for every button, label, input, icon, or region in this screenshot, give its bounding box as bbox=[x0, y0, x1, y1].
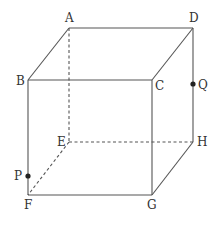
point-P bbox=[25, 173, 30, 178]
label-C: C bbox=[155, 79, 164, 93]
cube-diagram: A D B C Q E H P F G bbox=[0, 0, 219, 226]
edge-EF-hidden bbox=[28, 142, 69, 195]
edge-CD bbox=[152, 28, 193, 80]
edge-AB bbox=[28, 28, 69, 80]
label-B: B bbox=[16, 74, 25, 88]
label-F: F bbox=[24, 198, 32, 212]
label-G: G bbox=[147, 198, 157, 212]
edge-GH bbox=[152, 142, 193, 195]
label-A: A bbox=[64, 11, 74, 25]
label-E: E bbox=[57, 135, 66, 149]
label-D: D bbox=[189, 11, 199, 25]
label-Q: Q bbox=[198, 78, 208, 92]
label-P: P bbox=[14, 169, 22, 183]
label-H: H bbox=[197, 135, 207, 149]
point-Q bbox=[190, 81, 195, 86]
